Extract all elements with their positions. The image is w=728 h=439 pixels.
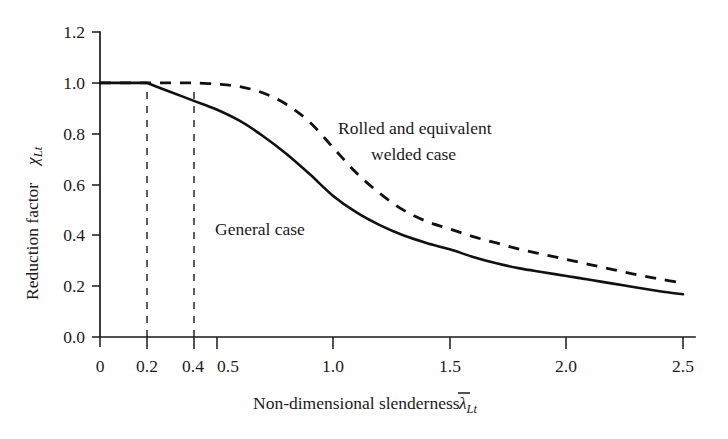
x-tick-label: 0.4 [182, 356, 204, 376]
y-tick-label: 0.6 [63, 175, 85, 195]
x-axis-title: Non-dimensional slenderness λLt [253, 393, 478, 416]
x-tick-label: 1.5 [439, 356, 461, 376]
x-tick-label: 2.5 [672, 356, 694, 376]
x-tick-label: 0.5 [217, 356, 239, 376]
y-axis-title-text: Reduction factor [22, 183, 42, 300]
y-tick-label: 0.2 [63, 276, 85, 296]
lambda-subscript: Lt [466, 402, 478, 416]
chart-figure: 0.0 0.2 0.4 0.6 0.8 1.0 1.2 0 0.2 0.4 0.… [0, 0, 728, 439]
annotation-rolled-welded-line1: Rolled and equivalent [338, 118, 492, 138]
y-tick-label: 1.0 [63, 73, 85, 93]
x-tick-label: 0.2 [136, 356, 158, 376]
reduction-factor-chart: 0.0 0.2 0.4 0.6 0.8 1.0 1.2 0 0.2 0.4 0.… [0, 0, 728, 439]
x-tick-label: 2.0 [555, 356, 577, 376]
x-axis-title-text: Non-dimensional slenderness [253, 393, 460, 413]
chart-background [0, 0, 728, 439]
y-tick-label: 0.4 [63, 225, 85, 245]
x-tick-label: 0 [96, 356, 105, 376]
chi-subscript: Lt [31, 146, 45, 158]
x-tick-label: 1.0 [322, 356, 344, 376]
annotation-rolled-welded-line2: welded case [371, 144, 456, 164]
y-tick-label: 0.8 [63, 124, 85, 144]
y-tick-label: 0.0 [63, 327, 85, 347]
annotation-general-case: General case [215, 219, 305, 239]
y-tick-label: 1.2 [63, 22, 85, 42]
